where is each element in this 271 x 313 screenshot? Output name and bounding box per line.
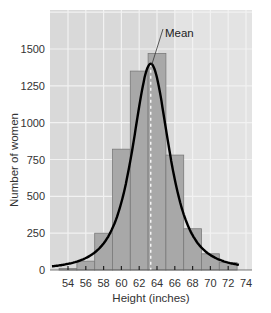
y-tick-label: 500 (27, 190, 45, 202)
y-tick-label: 1250 (21, 80, 45, 92)
x-tick-label: 64 (151, 277, 163, 289)
x-tick-label: 58 (97, 277, 109, 289)
y-tick-label: 750 (27, 154, 45, 166)
y-axis-ticks: 0250500750100012501500 (21, 43, 45, 276)
y-tick-label: 1000 (21, 117, 45, 129)
x-tick-label: 62 (133, 277, 145, 289)
y-tick-label: 0 (39, 264, 45, 276)
histogram-bar (166, 155, 184, 270)
x-tick-label: 56 (80, 277, 92, 289)
x-tick-label: 70 (204, 277, 216, 289)
y-axis-title: Number of women (8, 113, 20, 207)
y-tick-label: 250 (27, 227, 45, 239)
mean-label: Mean (165, 27, 194, 39)
x-tick-label: 66 (169, 277, 181, 289)
x-axis-title: Height (inches) (112, 292, 190, 304)
histogram-chart: Mean 5456586062646668707274 025050075010… (0, 0, 271, 313)
y-tick-label: 1500 (21, 43, 45, 55)
x-tick-label: 74 (240, 277, 252, 289)
x-tick-label: 54 (62, 277, 74, 289)
x-tick-label: 68 (186, 277, 198, 289)
x-tick-label: 72 (222, 277, 234, 289)
x-tick-label: 60 (115, 277, 127, 289)
histogram-bar (113, 149, 131, 270)
